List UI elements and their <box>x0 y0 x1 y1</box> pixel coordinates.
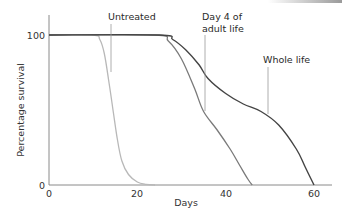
untreated-curve <box>49 35 155 185</box>
whole-life-annotation: Whole life <box>263 54 310 65</box>
day4-annotation-line2: adult life <box>202 23 244 34</box>
day4-curve <box>49 35 252 185</box>
x-tick-0: 0 <box>46 188 52 199</box>
x-axis-label: Days <box>174 197 198 208</box>
x-tick-40: 40 <box>220 188 232 199</box>
untreated-annotation: Untreated <box>108 11 156 22</box>
x-tick-60: 60 <box>308 188 320 199</box>
x-tick-20: 20 <box>131 188 143 199</box>
y-tick-0: 0 <box>39 180 45 191</box>
day4-annotation-line1: Day 4 of <box>202 11 243 22</box>
y-tick-100: 100 <box>27 30 45 41</box>
survival-chart: 100 0 0 20 40 60 Days Percentage surviva… <box>0 0 342 215</box>
y-axis-label: Percentage survival <box>15 63 26 157</box>
